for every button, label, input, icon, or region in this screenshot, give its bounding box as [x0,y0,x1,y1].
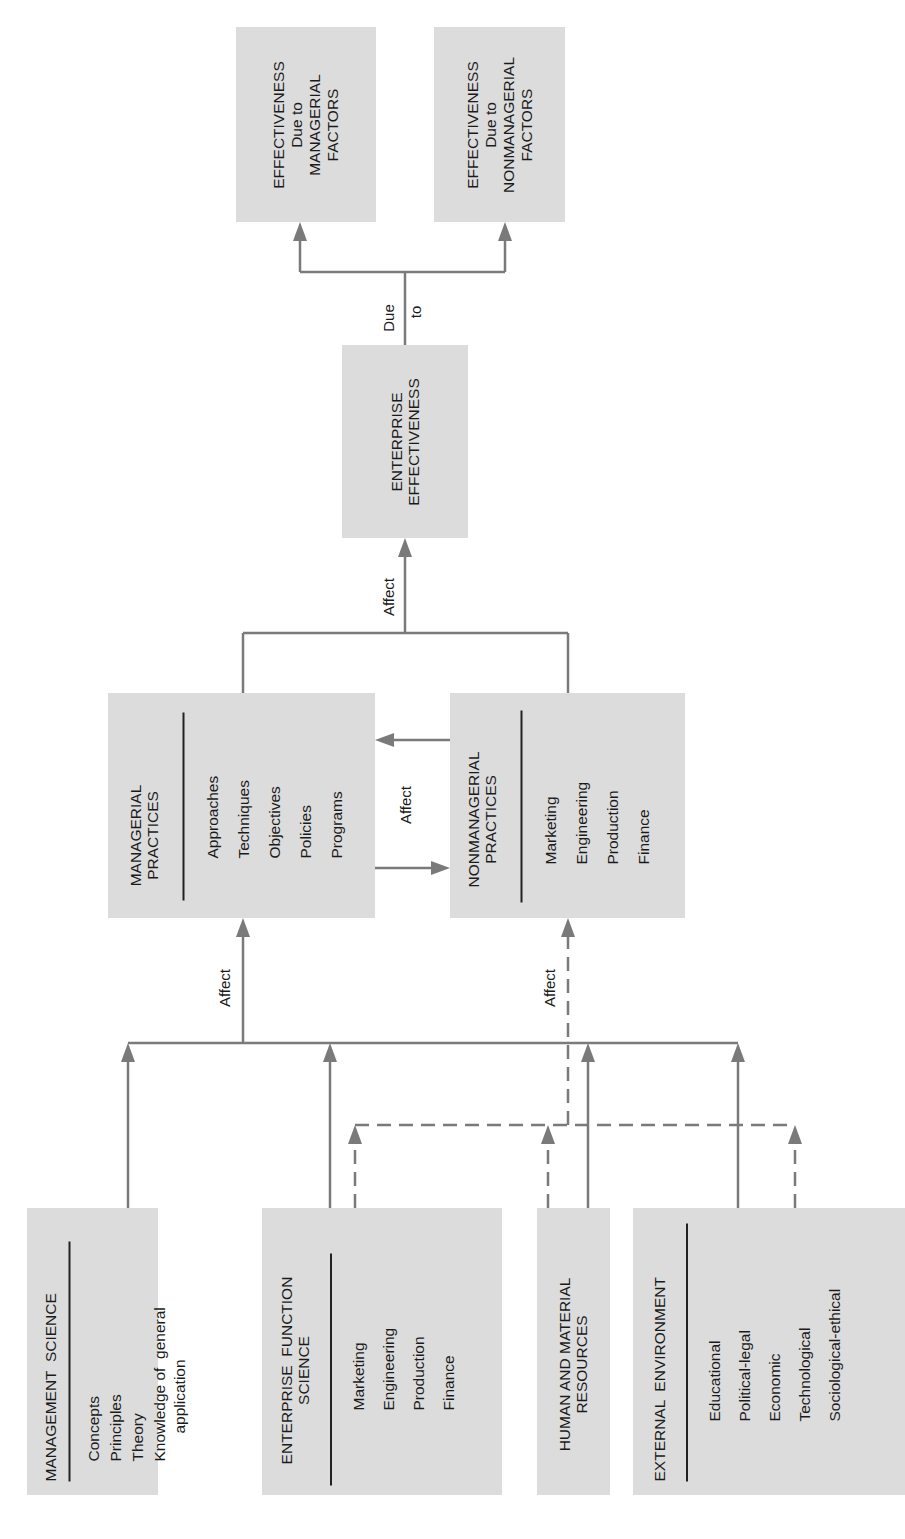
affect-label-nonmanagerial: Affect [541,969,558,1007]
list-item: Economic [760,1208,790,1421]
list-item: Concepts [82,1208,104,1461]
managerial-practices-box: MANAGERIAL PRACTICES Approaches Techniqu… [108,693,375,918]
list-item: Theory [126,1208,148,1461]
to-label: to [407,306,424,319]
list-item: Techniques [227,693,258,858]
nonmanagerial-factors-box: EFFECTIVENESS Due to NONMANAGERIAL FACTO… [434,27,565,222]
enterprise-function-science-box: ENTERPRISE FUNCTION SCIENCE Marketing En… [262,1208,502,1495]
nonmanagerial-practices-title-line1: NONMANAGERIAL [464,724,481,914]
external-environment-title: EXTERNAL ENVIRONMENT [651,1208,668,1481]
external-environment-box: EXTERNAL ENVIRONMENT Educational Politic… [633,1208,905,1495]
list-item: Approaches [196,693,227,858]
list-item: Political-legal [730,1208,760,1421]
nonmanagerial-factors-line1: EFFECTIVENESS [464,27,482,222]
affect-label-mutual: Affect [397,786,414,824]
list-item: Finance [434,1208,464,1410]
list-item: Marketing [534,693,565,864]
list-item: Technological [790,1208,820,1421]
list-item: Principles [104,1208,126,1461]
human-material-resources-box: HUMAN AND MATERIAL RESOURCES [537,1208,610,1495]
managerial-factors-box: EFFECTIVENESS Due to MANAGERIAL FACTORS [236,27,376,222]
list-item: Marketing [344,1208,374,1410]
enterprise-effectiveness-title-line2: EFFECTIVENESS [405,345,422,538]
list-item: Finance [627,693,658,864]
managerial-factors-line3: MANAGERIAL [306,27,324,222]
list-item: Production [596,693,627,864]
list-item: Knowledge of general [148,1208,170,1461]
management-science-title: MANAGEMENT SCIENCE [41,1208,58,1481]
nonmanagerial-factors-line2: Due to [482,27,500,222]
management-science-box: MANAGEMENT SCIENCE Concepts Principles T… [27,1208,158,1495]
human-material-resources-title-line1: HUMAN AND MATERIAL [555,1239,572,1489]
list-item: Educational [700,1208,730,1421]
nonmanagerial-practices-title-line2: PRACTICES [481,724,498,914]
list-item: Production [404,1208,434,1410]
list-item: application [170,1208,188,1461]
enterprise-effectiveness-title-line1: ENTERPRISE [388,345,405,538]
enterprise-function-science-title-line1: ENTERPRISE FUNCTION [278,1255,295,1485]
list-item: Engineering [565,693,596,864]
enterprise-function-science-title-line2: SCIENCE [295,1255,312,1485]
enterprise-effectiveness-box: ENTERPRISE EFFECTIVENESS [342,345,468,538]
nonmanagerial-factors-line3: NONMANAGERIAL [500,27,518,222]
due-label: Due [380,304,397,332]
list-item: Objectives [258,693,289,858]
human-material-resources-title-line2: RESOURCES [572,1239,589,1489]
affect-label-managerial: Affect [216,969,233,1007]
list-item: Policies [289,693,320,858]
affect-label-effectiveness: Affect [380,578,397,616]
nonmanagerial-practices-box: NONMANAGERIAL PRACTICES Marketing Engine… [450,693,685,918]
nonmanagerial-factors-line4: FACTORS [518,27,536,222]
list-item: Programs [320,693,351,858]
managerial-practices-title-line2: PRACTICES [143,770,160,900]
managerial-factors-line2: Due to [288,27,306,222]
list-item: Sociological-ethical [820,1208,850,1421]
managerial-factors-line1: EFFECTIVENESS [270,27,288,222]
list-item: Engineering [374,1208,404,1410]
managerial-practices-title-line1: MANAGERIAL [126,770,143,900]
managerial-factors-line4: FACTORS [324,27,342,222]
